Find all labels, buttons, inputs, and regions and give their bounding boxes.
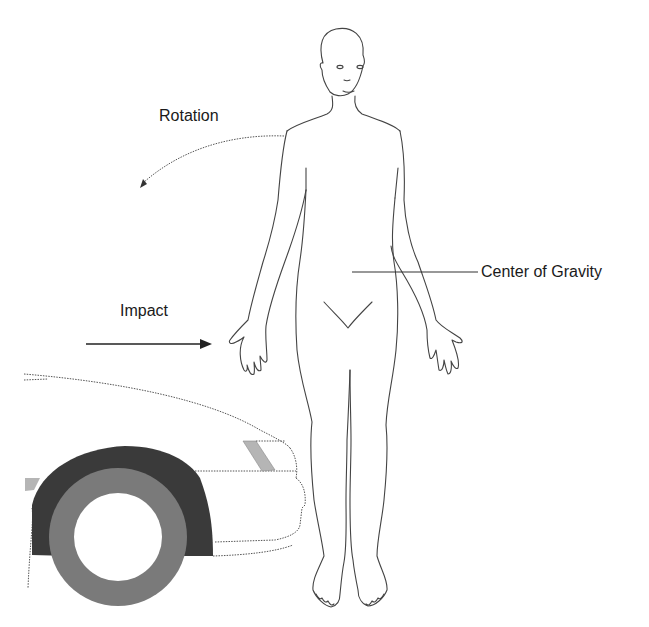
rotation-label: Rotation — [159, 108, 219, 124]
center-of-gravity-label: Center of Gravity — [481, 264, 602, 280]
impact-label: Impact — [120, 303, 168, 319]
headlight — [243, 441, 275, 471]
wheel-rim — [74, 493, 162, 581]
impact-diagram: Rotation Impact Center of Gravity — [0, 0, 649, 627]
side-marker-light — [25, 478, 40, 491]
impact-arrow — [86, 339, 212, 349]
human-figure — [229, 28, 462, 607]
car-front — [24, 374, 305, 606]
rotation-arrow — [140, 136, 284, 188]
